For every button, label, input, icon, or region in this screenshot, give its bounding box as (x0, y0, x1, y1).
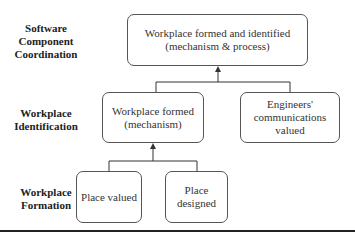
node-text: communications (254, 111, 327, 124)
node-text: (mechanism) (112, 118, 194, 131)
node-text: Engineers' (254, 98, 327, 111)
node-text: Place valued (81, 191, 137, 204)
node-text: designed (177, 197, 216, 210)
node-workplace-formed: Workplace formed (mechanism) (102, 92, 204, 143)
node-place-designed: Place designed (165, 171, 228, 223)
node-text: Workplace formed and identified (145, 27, 290, 40)
bottom-rule-divider (0, 230, 355, 232)
node-text: (mechanism & process) (145, 40, 290, 53)
node-place-valued: Place valued (76, 171, 142, 223)
node-text: Place (177, 184, 216, 197)
arrow-up-icon (150, 143, 156, 149)
node-text: valued (254, 124, 327, 137)
arrow-up-icon (215, 66, 221, 72)
node-workplace-formed-and-identified: Workplace formed and identified (mechani… (127, 14, 308, 66)
node-engineers-communications-valued: Engineers' communications valued (240, 92, 340, 143)
node-text: Workplace formed (112, 105, 194, 118)
